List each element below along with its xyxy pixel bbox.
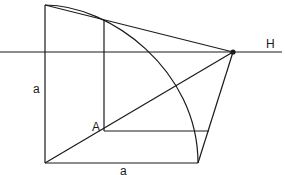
top-to-vanishing-line xyxy=(45,5,233,52)
label-h: H xyxy=(266,37,275,51)
vanishing-point xyxy=(230,49,235,54)
geometry-diagram: H A a a xyxy=(0,0,285,175)
diagram-svg: H A a a xyxy=(0,0,285,175)
right-slanted-line xyxy=(198,52,233,163)
label-a-horizontal: a xyxy=(120,164,127,175)
label-a-vertical: a xyxy=(33,82,40,96)
quarter-arc xyxy=(45,5,198,163)
label-a-point: A xyxy=(92,120,100,134)
diagonal-line xyxy=(45,52,233,163)
